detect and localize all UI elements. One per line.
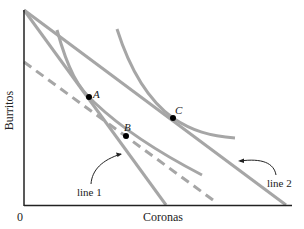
diagram-canvas bbox=[0, 0, 304, 229]
origin-label: 0 bbox=[17, 210, 23, 225]
indifference-curve-2 bbox=[117, 29, 235, 138]
y-axis-label: Burritos bbox=[2, 91, 17, 130]
arrowhead-line-1-icon bbox=[116, 153, 122, 158]
line-2-label: line 2 bbox=[267, 177, 292, 189]
arrow-line-1 bbox=[91, 154, 121, 184]
point-c-label: C bbox=[175, 104, 182, 116]
line-1 bbox=[24, 10, 166, 205]
line-1-label: line 1 bbox=[77, 186, 102, 198]
arrow-line-2 bbox=[240, 160, 276, 175]
line-2 bbox=[24, 10, 286, 205]
point-b bbox=[123, 133, 129, 139]
point-a-label: A bbox=[93, 88, 100, 100]
arrowhead-line-2-icon bbox=[238, 159, 244, 164]
point-a bbox=[86, 94, 92, 100]
point-b-label: B bbox=[124, 121, 131, 133]
x-axis-label: Coronas bbox=[143, 210, 183, 225]
